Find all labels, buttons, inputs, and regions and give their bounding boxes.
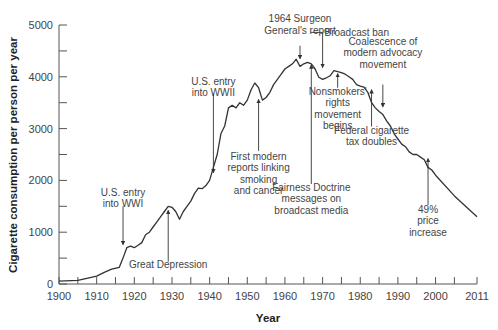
y-tick-label: 2000	[29, 174, 53, 186]
x-tick-label: 1940	[197, 290, 221, 302]
annotation-wwii: U.S. entryinto WWII	[191, 76, 235, 173]
annotation-text: modern advocacy	[343, 47, 422, 58]
annotation-text: tax doubles	[346, 136, 397, 147]
annotation-depression: Great Depression	[129, 210, 207, 270]
y-tick-label: 4000	[29, 71, 53, 83]
annotation-text: messages on	[282, 193, 341, 204]
annotation-text: U.S. entry	[101, 187, 145, 198]
annotation-text: First modern	[231, 151, 287, 162]
annotation-text: broadcast media	[274, 205, 348, 216]
x-tick-label: 1900	[47, 290, 71, 302]
x-tick-label: 1950	[235, 290, 259, 302]
y-tick-label: 3000	[29, 123, 53, 135]
annotation-nonsmokers: Nonsmokers'rightsmovementbegins	[309, 74, 367, 132]
x-tick-label: 1980	[348, 290, 372, 302]
annotation-text: movement	[314, 109, 361, 120]
annotations: U.S. entryinto WWIGreat DepressionU.S. e…	[101, 13, 448, 270]
y-axis-title: Cigarette consumption per person per yea…	[7, 37, 19, 273]
annotation-arrow	[311, 32, 323, 67]
x-tick-label: 1930	[160, 290, 184, 302]
annotation-text: reports linking	[227, 162, 289, 173]
annotation-text: Coalescence of	[348, 36, 417, 47]
cigarette-consumption-chart: 0100020003000400050001900191019201930194…	[0, 0, 498, 330]
x-tick-label: 1960	[273, 290, 297, 302]
x-tick-label: 1970	[310, 290, 334, 302]
annotation-text: movement	[360, 59, 407, 70]
x-tick-label: 2000	[423, 290, 447, 302]
annotation-text: U.S. entry	[191, 76, 235, 87]
x-tick-label: 1990	[386, 290, 410, 302]
annotation-text: 1964 Surgeon	[269, 13, 332, 24]
annotation-text: increase	[409, 227, 447, 238]
x-tick-label: 1910	[84, 290, 108, 302]
annotation-text: rights	[325, 97, 349, 108]
annotation-wwi: U.S. entryinto WWI	[101, 187, 145, 245]
annotation-price: 49%priceincrease	[409, 159, 447, 238]
y-tick-label: 1000	[29, 226, 53, 238]
x-tick-label: 2011	[465, 290, 489, 302]
x-axis-title: Year	[256, 312, 281, 324]
chart-canvas: 0100020003000400050001900191019201930194…	[0, 0, 498, 330]
x-tick-label: 1920	[122, 290, 146, 302]
annotation-text: price	[417, 215, 439, 226]
y-tick-label: 5000	[29, 19, 53, 31]
y-tick-label: 0	[47, 278, 53, 290]
